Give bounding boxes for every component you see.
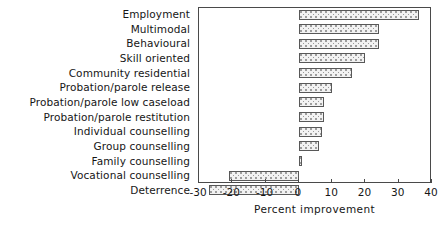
category-label: Probation/parole restitution (0, 110, 194, 125)
x-tick (231, 179, 232, 183)
bar-row (199, 81, 430, 96)
bar (299, 156, 302, 166)
category-label: Skill oriented (0, 51, 194, 66)
bar-row (199, 52, 430, 67)
category-label: Group counselling (0, 139, 194, 154)
x-axis-tick-labels: -30-20-10010203040 (0, 186, 447, 200)
bar-row (199, 67, 430, 82)
category-label: Behavioural (0, 36, 194, 51)
category-label: Probation/parole low caseload (0, 95, 194, 110)
bar (299, 10, 419, 20)
plot-area (198, 7, 431, 183)
x-tick (265, 179, 266, 183)
bar-row (199, 23, 430, 38)
bar-row (199, 155, 430, 170)
x-tick-label: 0 (295, 186, 302, 198)
x-tick-label: 20 (358, 186, 371, 198)
category-label: Employment (0, 7, 194, 22)
x-tick-label: -10 (256, 186, 273, 198)
bar-series (199, 8, 430, 182)
bar (299, 39, 379, 49)
bar-row (199, 37, 430, 52)
bar-row (199, 125, 430, 140)
x-axis-label: Percent improvement (198, 203, 431, 215)
x-tick-label: 10 (324, 186, 337, 198)
x-tick-label: 30 (391, 186, 404, 198)
bar (299, 141, 319, 151)
x-tick-label: -20 (223, 186, 240, 198)
bar-row (199, 8, 430, 23)
bar (299, 83, 332, 93)
bar-row (199, 140, 430, 155)
category-label: Probation/parole release (0, 80, 194, 95)
category-label: Family counselling (0, 154, 194, 169)
bar-row (199, 169, 430, 184)
category-label-column: EmploymentMultimodalBehaviouralSkill ori… (0, 7, 194, 183)
bar-chart-figure: EmploymentMultimodalBehaviouralSkill ori… (0, 0, 447, 225)
category-label: Multimodal (0, 22, 194, 37)
bar (299, 97, 324, 107)
x-tick (364, 179, 365, 183)
bar (299, 53, 366, 63)
bar (299, 24, 379, 34)
bar-row (199, 111, 430, 126)
bar (299, 112, 324, 122)
category-label: Vocational counselling (0, 168, 194, 183)
bar-row (199, 96, 430, 111)
x-tick-label: 40 (424, 186, 437, 198)
category-label: Community residential (0, 66, 194, 81)
x-tick-label: -30 (189, 186, 206, 198)
x-tick (331, 179, 332, 183)
x-tick (431, 179, 432, 183)
bar (299, 127, 322, 137)
x-tick (398, 179, 399, 183)
bar (299, 68, 352, 78)
x-tick (298, 179, 299, 183)
category-label: Individual counselling (0, 124, 194, 139)
x-tick (198, 179, 199, 183)
